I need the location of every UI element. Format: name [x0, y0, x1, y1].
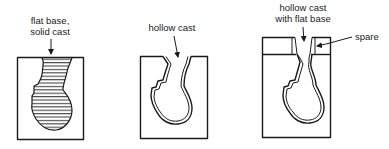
label-spare: spare — [355, 31, 379, 42]
label-flat-base: flat base, — [31, 15, 70, 26]
label-hollow-cast: hollow cast — [149, 22, 196, 33]
arrow-icon — [303, 27, 304, 41]
arrow-icon — [174, 36, 178, 57]
arrow-icon — [317, 37, 352, 46]
label-hollow-cast: hollow cast — [280, 2, 327, 13]
label-with-flat-base: with flat base — [274, 13, 330, 24]
solid-cast-shape — [32, 58, 72, 131]
panel-hollow-cast: hollow cast — [141, 22, 208, 139]
hollow-shell-inner — [154, 57, 189, 122]
hollow-shell-outer — [151, 57, 192, 125]
label-solid-cast: solid cast — [30, 26, 70, 37]
casting-diagram: flat base, solid cast hollow cast hollow… — [0, 0, 389, 149]
hollow-shell-inner — [286, 58, 321, 120]
panel-hollow-cast-flat-base: hollow cast with flat base spare — [263, 2, 379, 138]
panel-solid-cast: flat base, solid cast — [18, 15, 84, 140]
